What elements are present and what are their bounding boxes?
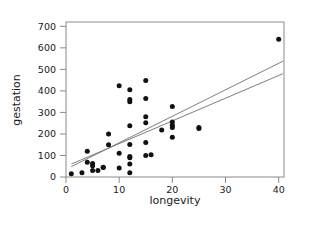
data-point	[127, 123, 132, 128]
data-point	[106, 142, 111, 147]
y-axis-label: gestation	[10, 74, 23, 126]
data-point	[276, 37, 281, 42]
y-tick-label: 200	[38, 128, 56, 139]
data-point	[143, 120, 148, 125]
y-tick-label: 0	[50, 171, 56, 182]
regression-lines	[71, 61, 283, 166]
y-tick-label: 300	[38, 107, 56, 118]
x-axis-label: longevity	[150, 194, 201, 207]
data-point	[117, 165, 122, 170]
plot-canvas: 0100200300400500600700 010203040 longevi…	[0, 0, 309, 226]
plot-frame	[66, 22, 284, 177]
data-point	[117, 151, 122, 156]
data-point	[101, 165, 106, 170]
data-point	[127, 142, 132, 147]
data-point	[196, 126, 201, 131]
data-point	[149, 152, 154, 157]
data-point	[127, 162, 132, 167]
data-point	[90, 163, 95, 168]
scatter-plot-figure: 0100200300400500600700 010203040 longevi…	[0, 0, 309, 226]
data-point	[90, 168, 95, 173]
data-point	[69, 171, 74, 176]
y-tick-label: 700	[38, 21, 56, 32]
data-point	[127, 155, 132, 160]
data-point	[127, 87, 132, 92]
y-tick-label: 600	[38, 42, 56, 53]
data-point	[85, 149, 90, 154]
data-points	[69, 37, 281, 177]
x-axis-ticks	[66, 177, 279, 183]
axes-frame	[66, 22, 284, 177]
data-point	[117, 83, 122, 88]
data-point	[170, 125, 175, 130]
data-point	[170, 104, 175, 109]
data-point	[143, 140, 148, 145]
y-axis-tick-labels: 0100200300400500600700	[38, 21, 56, 183]
data-point	[106, 131, 111, 136]
x-tick-label: 40	[273, 184, 285, 195]
y-tick-label: 500	[38, 64, 56, 75]
data-point	[127, 170, 132, 175]
y-axis-ticks	[60, 26, 66, 177]
data-point	[85, 160, 90, 165]
y-tick-label: 100	[38, 150, 56, 161]
line-lower	[71, 74, 283, 164]
y-tick-label: 400	[38, 85, 56, 96]
x-tick-label: 30	[219, 184, 231, 195]
data-point	[143, 114, 148, 119]
data-point	[95, 168, 100, 173]
data-point	[170, 135, 175, 140]
data-point	[127, 99, 132, 104]
data-point	[143, 78, 148, 83]
x-tick-label: 10	[113, 184, 125, 195]
data-point	[79, 170, 84, 175]
data-point	[143, 96, 148, 101]
data-point	[159, 128, 164, 133]
data-point	[143, 153, 148, 158]
x-tick-label: 0	[63, 184, 69, 195]
